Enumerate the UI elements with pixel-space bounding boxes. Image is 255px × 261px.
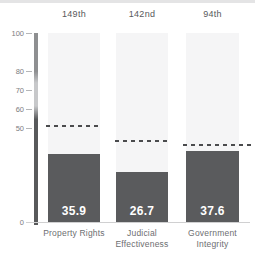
top-edge-strip (0, 0, 255, 3)
y-axis-label-80: 80 (4, 67, 24, 76)
bar-government-integrity: 37.6 (186, 151, 239, 222)
bar-value-property-rights: 35.9 (48, 204, 100, 218)
y-axis-label-60: 60 (4, 105, 24, 114)
reference-dashed-line-judicial-effectiveness (115, 140, 170, 142)
y-axis-label-70: 70 (4, 86, 24, 95)
reference-dashed-line-property-rights (46, 125, 102, 127)
rank-label-government-integrity: 94th (186, 9, 239, 19)
y-axis-tick (26, 128, 32, 129)
y-axis-tick (26, 33, 32, 34)
x-axis-baseline (26, 222, 250, 223)
bar-column-government-integrity: 37.6 (186, 33, 239, 222)
category-label-judicial-effectiveness: Judicial Effectiveness (107, 228, 177, 249)
bar-column-property-rights: 35.9 (48, 33, 100, 222)
indicator-bar-chart: 149th 142nd 94th 100 80 70 60 50 0 35.9 … (0, 0, 255, 261)
y-axis-label-0: 0 (4, 218, 24, 227)
rank-label-property-rights: 149th (48, 9, 100, 19)
y-axis-gradient-bar (34, 33, 38, 225)
rank-label-judicial-effectiveness: 142nd (116, 9, 168, 19)
y-axis-label-100: 100 (4, 29, 24, 38)
bar-property-rights: 35.9 (48, 154, 100, 222)
y-axis-tick (26, 71, 32, 72)
bar-judicial-effectiveness: 26.7 (116, 172, 168, 222)
bar-column-judicial-effectiveness: 26.7 (116, 33, 168, 222)
bar-value-government-integrity: 37.6 (186, 204, 239, 218)
y-axis-tick (26, 109, 32, 110)
y-axis-label-50: 50 (4, 124, 24, 133)
category-label-property-rights: Property Rights (39, 228, 109, 239)
y-axis-tick (26, 90, 32, 91)
reference-dashed-line-government-integrity (183, 144, 253, 146)
bar-value-judicial-effectiveness: 26.7 (116, 204, 168, 218)
category-label-government-integrity: Government Integrity (177, 228, 248, 249)
